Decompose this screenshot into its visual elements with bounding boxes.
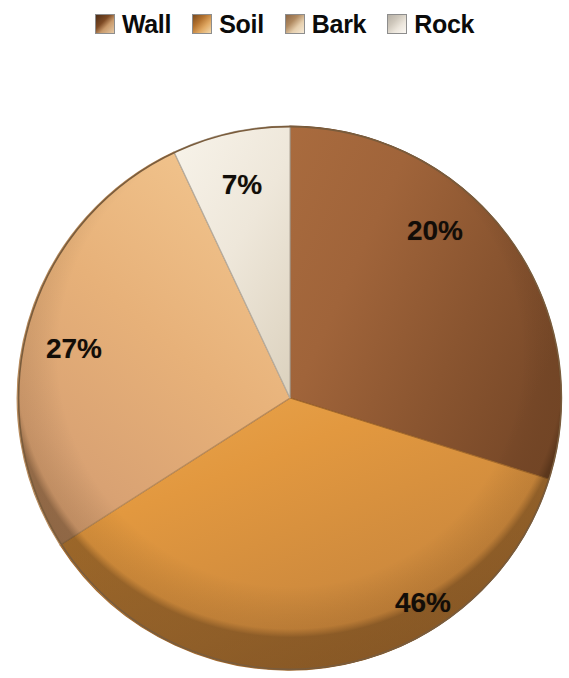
pie-label-soil: 46%: [395, 587, 451, 619]
pie-label-wall: 20%: [407, 215, 463, 247]
pie-label-bark: 27%: [46, 333, 102, 365]
pie-rim-shading: [18, 126, 562, 670]
pie-label-rock: 7%: [222, 169, 262, 201]
pie-chart: 20% 46% 27% 7%: [0, 0, 569, 678]
